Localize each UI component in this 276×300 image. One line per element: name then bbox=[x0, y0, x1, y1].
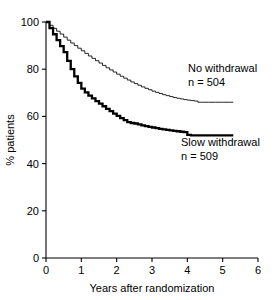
x-tick-label: 4 bbox=[184, 264, 190, 276]
y-tick-label: 0 bbox=[33, 252, 39, 264]
x-tick-label: 2 bbox=[114, 264, 120, 276]
x-tick-group bbox=[46, 258, 258, 262]
no-withdrawal-annotation: No withdrawal n = 504 bbox=[188, 62, 257, 88]
x-axis: 0123456 bbox=[43, 258, 261, 276]
slow-withdrawal-name: Slow withdrawal bbox=[181, 136, 260, 148]
slow-withdrawal-annotation: Slow withdrawal n = 509 bbox=[181, 136, 260, 162]
survival-curve-figure: 020406080100 0123456 Years after randomi… bbox=[0, 0, 276, 300]
y-tick-label: 60 bbox=[27, 110, 39, 122]
slow-withdrawal-n: n = 509 bbox=[181, 150, 218, 162]
no-withdrawal-name: No withdrawal bbox=[188, 62, 257, 74]
x-tick-label: 1 bbox=[78, 264, 84, 276]
x-tick-label: 0 bbox=[43, 264, 49, 276]
x-axis-title: Years after randomization bbox=[90, 282, 215, 294]
y-tick-label-group: 020406080100 bbox=[21, 16, 39, 264]
y-axis-title: % patients bbox=[4, 114, 16, 166]
y-tick-group bbox=[42, 22, 46, 258]
y-tick-label: 40 bbox=[27, 158, 39, 170]
y-axis: 020406080100 bbox=[21, 16, 46, 264]
x-tick-label: 3 bbox=[149, 264, 155, 276]
y-tick-label: 100 bbox=[21, 16, 39, 28]
y-tick-label: 80 bbox=[27, 63, 39, 75]
x-tick-label: 5 bbox=[220, 264, 226, 276]
chart-canvas: 020406080100 0123456 Years after randomi… bbox=[0, 0, 276, 300]
no-withdrawal-n: n = 504 bbox=[188, 76, 225, 88]
x-tick-label: 6 bbox=[255, 264, 261, 276]
x-tick-label-group: 0123456 bbox=[43, 264, 261, 276]
y-tick-label: 20 bbox=[27, 205, 39, 217]
